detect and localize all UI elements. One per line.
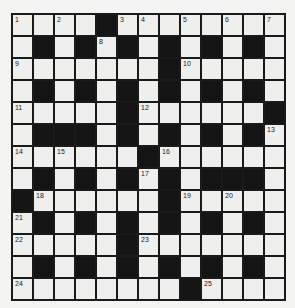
- crossword-cell[interactable]: 22: [13, 235, 32, 255]
- crossword-cell[interactable]: [265, 235, 284, 255]
- crossword-cell[interactable]: [181, 235, 200, 255]
- crossword-cell[interactable]: [202, 15, 221, 35]
- crossword-cell[interactable]: [223, 213, 242, 233]
- crossword-cell[interactable]: 10: [181, 59, 200, 79]
- crossword-cell[interactable]: 23: [139, 235, 158, 255]
- crossword-cell[interactable]: [223, 279, 242, 299]
- crossword-cell[interactable]: [181, 37, 200, 57]
- crossword-cell[interactable]: [55, 279, 74, 299]
- crossword-cell[interactable]: 5: [181, 15, 200, 35]
- crossword-cell[interactable]: 2: [55, 15, 74, 35]
- crossword-cell[interactable]: [202, 103, 221, 123]
- crossword-cell[interactable]: [139, 59, 158, 79]
- crossword-cell[interactable]: [34, 235, 53, 255]
- crossword-cell[interactable]: [265, 147, 284, 167]
- crossword-cell[interactable]: [97, 125, 116, 145]
- crossword-cell[interactable]: [265, 257, 284, 277]
- crossword-cell[interactable]: [202, 191, 221, 211]
- crossword-cell[interactable]: [244, 103, 263, 123]
- crossword-cell[interactable]: [244, 191, 263, 211]
- crossword-cell[interactable]: [265, 213, 284, 233]
- crossword-cell[interactable]: [34, 59, 53, 79]
- crossword-cell[interactable]: [97, 103, 116, 123]
- crossword-cell[interactable]: [265, 59, 284, 79]
- crossword-cell[interactable]: [160, 235, 179, 255]
- crossword-cell[interactable]: [244, 147, 263, 167]
- crossword-cell[interactable]: [55, 213, 74, 233]
- crossword-cell[interactable]: [76, 103, 95, 123]
- crossword-cell[interactable]: [76, 147, 95, 167]
- crossword-cell[interactable]: [139, 81, 158, 101]
- crossword-cell[interactable]: [139, 279, 158, 299]
- crossword-cell[interactable]: [265, 169, 284, 189]
- crossword-cell[interactable]: [97, 257, 116, 277]
- crossword-cell[interactable]: [244, 59, 263, 79]
- crossword-cell[interactable]: [265, 279, 284, 299]
- crossword-cell[interactable]: [139, 37, 158, 57]
- crossword-cell[interactable]: [55, 191, 74, 211]
- crossword-cell[interactable]: 9: [13, 59, 32, 79]
- crossword-cell[interactable]: [97, 213, 116, 233]
- crossword-cell[interactable]: 25: [202, 279, 221, 299]
- crossword-cell[interactable]: [76, 235, 95, 255]
- crossword-cell[interactable]: 20: [223, 191, 242, 211]
- crossword-cell[interactable]: [181, 147, 200, 167]
- crossword-cell[interactable]: [223, 81, 242, 101]
- crossword-cell[interactable]: [76, 191, 95, 211]
- crossword-cell[interactable]: [118, 191, 137, 211]
- crossword-cell[interactable]: [76, 15, 95, 35]
- crossword-cell[interactable]: [181, 257, 200, 277]
- crossword-cell[interactable]: [223, 147, 242, 167]
- crossword-cell[interactable]: [97, 279, 116, 299]
- crossword-cell[interactable]: 19: [181, 191, 200, 211]
- crossword-cell[interactable]: [265, 81, 284, 101]
- crossword-cell[interactable]: [55, 59, 74, 79]
- crossword-cell[interactable]: [34, 147, 53, 167]
- crossword-cell[interactable]: 16: [160, 147, 179, 167]
- crossword-cell[interactable]: [223, 125, 242, 145]
- crossword-cell[interactable]: [181, 125, 200, 145]
- crossword-cell[interactable]: [244, 279, 263, 299]
- crossword-cell[interactable]: [244, 15, 263, 35]
- crossword-cell[interactable]: [118, 279, 137, 299]
- crossword-cell[interactable]: [118, 147, 137, 167]
- crossword-cell[interactable]: 4: [139, 15, 158, 35]
- crossword-cell[interactable]: [97, 235, 116, 255]
- crossword-cell[interactable]: 6: [223, 15, 242, 35]
- crossword-cell[interactable]: [34, 15, 53, 35]
- crossword-cell[interactable]: [181, 169, 200, 189]
- crossword-cell[interactable]: [55, 103, 74, 123]
- crossword-cell[interactable]: [97, 59, 116, 79]
- crossword-cell[interactable]: [34, 279, 53, 299]
- crossword-cell[interactable]: [97, 147, 116, 167]
- crossword-cell[interactable]: [76, 279, 95, 299]
- crossword-cell[interactable]: [13, 37, 32, 57]
- crossword-cell[interactable]: 15: [55, 147, 74, 167]
- crossword-cell[interactable]: [55, 81, 74, 101]
- crossword-cell[interactable]: [97, 81, 116, 101]
- crossword-cell[interactable]: [13, 81, 32, 101]
- crossword-cell[interactable]: [202, 235, 221, 255]
- crossword-cell[interactable]: [160, 279, 179, 299]
- crossword-cell[interactable]: [13, 257, 32, 277]
- crossword-cell[interactable]: 3: [118, 15, 137, 35]
- crossword-cell[interactable]: [181, 213, 200, 233]
- crossword-cell[interactable]: [97, 169, 116, 189]
- crossword-cell[interactable]: [223, 257, 242, 277]
- crossword-cell[interactable]: [139, 191, 158, 211]
- crossword-cell[interactable]: 21: [13, 213, 32, 233]
- crossword-cell[interactable]: 17: [139, 169, 158, 189]
- crossword-cell[interactable]: 11: [13, 103, 32, 123]
- crossword-cell[interactable]: [118, 59, 137, 79]
- crossword-cell[interactable]: [202, 59, 221, 79]
- crossword-cell[interactable]: [13, 169, 32, 189]
- crossword-cell[interactable]: [55, 37, 74, 57]
- crossword-cell[interactable]: [160, 15, 179, 35]
- crossword-cell[interactable]: 1: [13, 15, 32, 35]
- crossword-cell[interactable]: [13, 125, 32, 145]
- crossword-cell[interactable]: [181, 81, 200, 101]
- crossword-cell[interactable]: [223, 37, 242, 57]
- crossword-cell[interactable]: 12: [139, 103, 158, 123]
- crossword-cell[interactable]: [76, 59, 95, 79]
- crossword-cell[interactable]: [223, 103, 242, 123]
